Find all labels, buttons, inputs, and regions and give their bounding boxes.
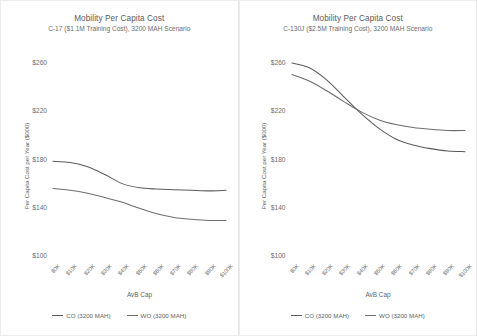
x-axis-title: AvB Cap bbox=[292, 291, 465, 298]
legend-item-wo[interactable]: WO (3200 MAH) bbox=[365, 312, 425, 319]
legend-swatch-icon bbox=[291, 315, 302, 316]
legend-label: WO (3200 MAH) bbox=[379, 312, 425, 319]
series-line-wo bbox=[53, 188, 226, 220]
legend-item-wo[interactable]: WO (3200 MAH) bbox=[127, 312, 187, 319]
legend-right: CO (3200 MAH)WO (3200 MAH) bbox=[240, 312, 477, 319]
chart-panel-c130j: Mobility Per Capita Cost C-130J ($2.5M T… bbox=[239, 0, 477, 336]
legend-label: CO (3200 MAH) bbox=[305, 312, 349, 319]
plot-area-right: Per Capita Cost per Year ($000) $100$140… bbox=[240, 1, 477, 335]
series-line-wo bbox=[292, 74, 465, 130]
chart-panel-c17: Mobility Per Capita Cost C-17 ($1.1M Tra… bbox=[0, 0, 239, 336]
series-line-co bbox=[53, 161, 226, 191]
legend-left: CO (3200 MAH)WO (3200 MAH) bbox=[1, 312, 238, 319]
legend-label: CO (3200 MAH) bbox=[66, 312, 110, 319]
legend-swatch-icon bbox=[52, 315, 63, 316]
series-svg-left bbox=[1, 1, 239, 336]
series-svg-right bbox=[240, 1, 477, 336]
legend-swatch-icon bbox=[127, 315, 138, 316]
x-axis-title: AvB Cap bbox=[53, 291, 226, 298]
legend-item-co[interactable]: CO (3200 MAH) bbox=[52, 312, 110, 319]
legend-item-co[interactable]: CO (3200 MAH) bbox=[291, 312, 349, 319]
dual-chart-figure: Mobility Per Capita Cost C-17 ($1.1M Tra… bbox=[0, 0, 477, 336]
legend-label: WO (3200 MAH) bbox=[141, 312, 187, 319]
plot-area-left: Per Capita Cost per Year ($000) $100$140… bbox=[1, 1, 238, 335]
series-line-co bbox=[292, 63, 465, 152]
legend-swatch-icon bbox=[365, 315, 376, 316]
